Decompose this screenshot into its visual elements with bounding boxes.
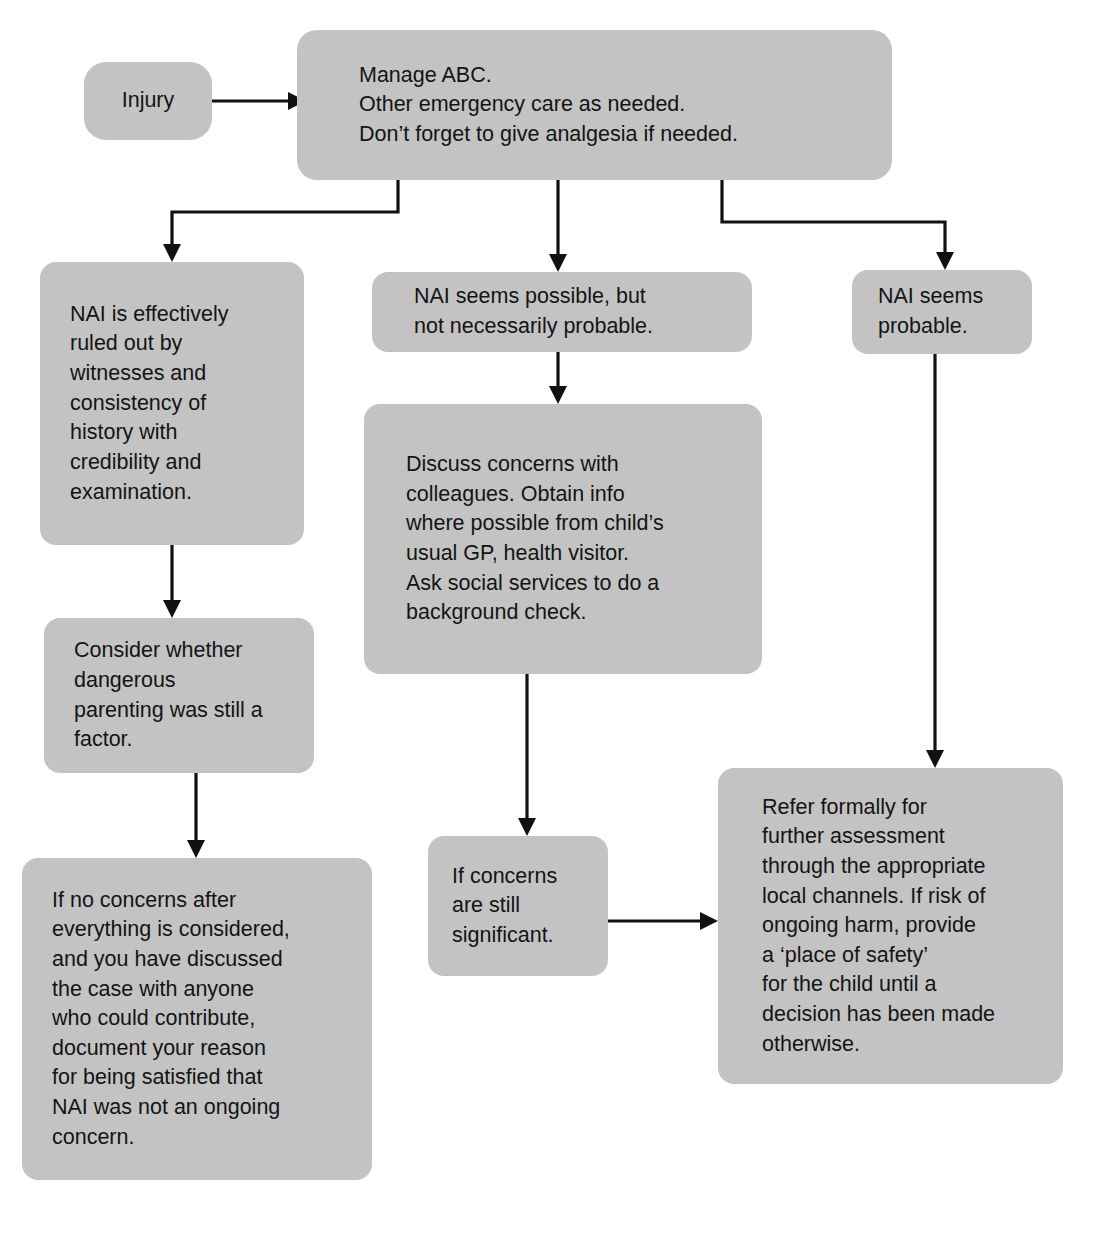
node-if-concerns-significant[interactable]: If concerns are still significant. xyxy=(428,836,608,976)
edge-consider-to-no-concerns xyxy=(187,773,205,858)
edge-ruled-out-to-consider xyxy=(163,545,181,618)
node-refer-formally-label: Refer formally for further assessment th… xyxy=(762,793,1019,1060)
edge-probable-to-refer xyxy=(926,354,944,768)
node-discuss-concerns[interactable]: Discuss concerns with colleagues. Obtain… xyxy=(364,404,762,674)
node-if-concerns-significant-label: If concerns are still significant. xyxy=(452,862,584,951)
node-injury[interactable]: Injury xyxy=(84,62,212,140)
node-injury-label: Injury xyxy=(94,86,202,116)
node-consider-dangerous-parenting-label: Consider whether dangerous parenting was… xyxy=(74,636,284,755)
node-manage-abc-label: Manage ABC. Other emergency care as need… xyxy=(359,61,830,150)
flowchart-canvas: Injury Manage ABC. Other emergency care … xyxy=(0,0,1102,1242)
node-nai-ruled-out-label: NAI is effectively ruled out by witnesse… xyxy=(70,300,274,508)
node-nai-possible[interactable]: NAI seems possible, but not necessarily … xyxy=(372,272,752,352)
edge-manage-to-probable xyxy=(722,180,954,270)
node-manage-abc[interactable]: Manage ABC. Other emergency care as need… xyxy=(297,30,892,180)
edge-discuss-to-if-concerns xyxy=(518,674,536,836)
edge-injury-to-manage xyxy=(212,92,306,110)
node-no-concerns-document-label: If no concerns after everything is consi… xyxy=(52,886,342,1153)
node-no-concerns-document[interactable]: If no concerns after everything is consi… xyxy=(22,858,372,1180)
edge-possible-to-discuss xyxy=(549,352,567,404)
node-discuss-concerns-label: Discuss concerns with colleagues. Obtain… xyxy=(406,450,720,628)
node-consider-dangerous-parenting[interactable]: Consider whether dangerous parenting was… xyxy=(44,618,314,773)
node-nai-ruled-out[interactable]: NAI is effectively ruled out by witnesse… xyxy=(40,262,304,545)
edge-if-concerns-to-refer xyxy=(608,912,718,930)
edge-manage-to-ruled-out xyxy=(163,180,398,262)
edge-manage-to-possible xyxy=(549,180,567,272)
node-nai-possible-label: NAI seems possible, but not necessarily … xyxy=(414,282,710,341)
node-nai-probable[interactable]: NAI seems probable. xyxy=(852,270,1032,354)
node-nai-probable-label: NAI seems probable. xyxy=(878,282,1006,341)
node-refer-formally[interactable]: Refer formally for further assessment th… xyxy=(718,768,1063,1084)
